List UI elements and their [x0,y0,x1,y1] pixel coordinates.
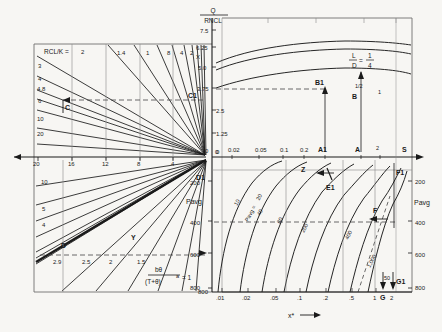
fan-label-20: 20 [37,131,44,137]
xr-tick-002: 0.02 [228,147,240,153]
xr-tick-2: 2 [376,145,379,151]
point-label-b: B [352,93,357,100]
point-label-s: S [402,146,407,153]
rcl-over-k-label: RCL/K = [44,48,69,55]
ytick-125: 1.25 [216,131,228,137]
bx-tick-02: .2 [323,295,329,301]
formula-equals: = 1 [182,274,192,281]
point-label-a1: A1 [318,146,327,153]
q-denominator: RNCL [204,17,222,24]
ld-val-num: 1 [368,52,372,59]
ld-den: D [352,62,357,69]
ll-tick-29: 2.9 [53,259,62,265]
ll-tick-15: 1.5 [137,259,146,265]
point-label-a: A [355,146,360,153]
xtick-ul-20: 20 [33,161,40,167]
pavg-right-800: 800 [415,285,426,291]
bx-tick-05: .5 [349,295,355,301]
ld-eq: = [359,57,363,64]
fan-label-48: 4.8 [37,86,46,92]
point-label-c: C [65,104,70,111]
point-label-f1: F1 [396,169,404,176]
xr-tick-01: 0.1 [280,147,289,153]
pavg-right-axis-label: Pavg [414,199,430,207]
point-label-z: Z [301,166,306,173]
ll-pavg-tick-400: 400 [190,220,201,226]
ld-curve-label-one: 1 [378,89,381,95]
nomograph-svg: RCL/K = 3 4 4.8 6 10 20 2 1.4 1 8 4 2 C … [0,0,442,332]
point-label-g1: G1 [396,278,405,285]
xtick-ul-16: 16 [68,161,75,167]
point-label-d: D [61,242,66,249]
formula-numerator: bθ [155,266,163,273]
bx-tick-001: .01 [216,295,225,301]
pavg-right-600: 600 [415,252,426,258]
point-label-g: G [380,294,386,301]
point-label-b1: B1 [315,79,324,86]
point-label-y: Y [131,234,136,241]
q-numerator: Q [210,7,215,15]
pavg-curve-label-50: 50 [384,275,390,281]
bx-tick-005: .05 [270,295,279,301]
xstar-axis-label: x* [288,312,295,319]
ytick-25: 2.5 [216,108,225,114]
x-marker-label: X [196,54,200,60]
ll-pavg-tick-200: 200 [190,180,201,186]
rcl-numerator: RCL/K = [44,48,69,55]
pavg-right-400: 400 [415,220,426,226]
fan-label-10: 10 [37,116,44,122]
ytick-625: 6.25 [196,45,208,51]
pavg-right-200: 200 [415,179,426,185]
bx-tick-01: .1 [297,295,303,301]
xtick-ul-12: 12 [102,161,109,167]
ytick-75: 7.5 [200,28,209,34]
bx-tick-002: .02 [242,295,251,301]
fan-top-label-14: 1.4 [117,50,126,56]
point-label-c1: C1 [188,92,197,99]
xr-tick-005: 0.05 [255,147,267,153]
formula-denominator: (T+θ) [145,278,161,286]
bottom-left-800: 800 [198,289,209,295]
ll-fan-label-10: 10 [41,179,48,185]
ytick-50: 5.0 [198,65,207,71]
nomograph-figure: RCL/K = 3 4 4.8 6 10 20 2 1.4 1 8 4 2 C … [0,0,442,332]
point-label-f: F [373,207,378,214]
ld-curve-label-half: 1/2 [355,83,363,89]
ll-tick-25: 2.5 [82,259,91,265]
ld-num: L [352,52,356,59]
point-label-e1: E1 [326,184,335,191]
xr-tick-02: 0.2 [300,147,309,153]
ytick-375: 3.75 [197,86,209,92]
ll-pavg-axis-label: Pavg [186,198,202,206]
ld-val-den: 4 [368,62,372,69]
